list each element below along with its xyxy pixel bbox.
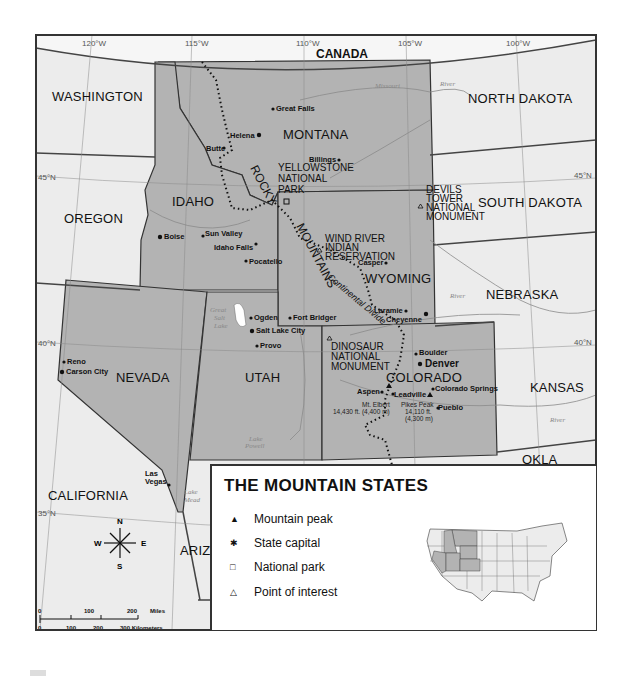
- legend-item-state-capital: ✱ State capital: [230, 536, 320, 550]
- national-park-icon: □: [230, 562, 254, 572]
- state-capital-icon: ✱: [230, 538, 254, 548]
- us-locator-inset: [422, 521, 572, 606]
- legend-box: THE MOUNTAIN STATES ▲ Mountain peak ✱ St…: [210, 464, 596, 630]
- page-corner-mark: [30, 670, 46, 676]
- mountain-peak-icon: ▲: [230, 514, 254, 524]
- legend-item-mountain-peak: ▲ Mountain peak: [230, 512, 333, 526]
- legend-item-point-of-interest: △ Point of interest: [230, 585, 337, 599]
- legend-title: THE MOUNTAIN STATES: [224, 476, 428, 496]
- point-of-interest-icon: △: [230, 587, 254, 597]
- legend-item-national-park: □ National park: [230, 560, 325, 574]
